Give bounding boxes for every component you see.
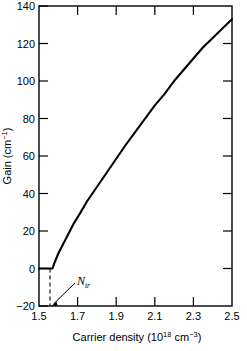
x-axis-title-main: Carrier density (10 [73, 331, 163, 343]
y-tick-label-100: 100 [17, 75, 35, 87]
y-axis-ticks-right [223, 44, 232, 269]
x-tick-label-2.5: 2.5 [224, 310, 239, 322]
y-axis-title-main: Gain (cm [1, 140, 13, 185]
x-tick-label-2.1: 2.1 [147, 310, 162, 322]
y-tick-label-80: 80 [23, 113, 35, 125]
ntr-annotation-label: Ntr [76, 274, 90, 290]
y-tick-label-0: 0 [29, 263, 35, 275]
axes-box [39, 6, 232, 306]
plot-frame [39, 6, 232, 306]
ntr-arrow-leader [54, 283, 76, 304]
x-axis-title-exp1: 18 [163, 330, 171, 339]
svg-text:Carrier density (1018 cm−3): Carrier density (1018 cm−3) [73, 330, 202, 343]
y-axis-title: Gain (cm−1) [0, 128, 13, 185]
ntr-label-sub: tr [85, 281, 90, 290]
y-axis-title-tail: ) [1, 128, 13, 132]
gain-curve [39, 19, 232, 268]
x-tick-label-1.9: 1.9 [109, 310, 124, 322]
y-tick-label-40: 40 [23, 188, 35, 200]
y-tick-label-140: 140 [17, 0, 35, 12]
x-axis-ticks-top [78, 6, 194, 15]
figure-container: 140 120 100 80 60 40 20 0 −20 1.5 1.7 1.… [0, 0, 247, 351]
x-tick-labels: 1.5 1.7 1.9 2.1 2.3 2.5 [31, 310, 239, 322]
x-axis-title-exp2: −3 [189, 330, 198, 339]
x-tick-label-2.3: 2.3 [186, 310, 201, 322]
y-axis-ticks [39, 6, 48, 306]
x-axis-title-mid: cm [171, 331, 189, 343]
x-axis-title: Carrier density (1018 cm−3) [73, 330, 202, 343]
x-tick-label-1.7: 1.7 [70, 310, 85, 322]
x-axis-title-tail: ) [198, 331, 202, 343]
gain-vs-carrier-density-chart: 140 120 100 80 60 40 20 0 −20 1.5 1.7 1.… [0, 0, 247, 351]
y-tick-label-120: 120 [17, 38, 35, 50]
svg-text:Gain (cm−1): Gain (cm−1) [0, 128, 13, 185]
x-tick-label-1.5: 1.5 [31, 310, 46, 322]
y-tick-labels: 140 120 100 80 60 40 20 0 −20 [16, 0, 35, 312]
x-axis-ticks [78, 297, 194, 306]
y-tick-label-20: 20 [23, 225, 35, 237]
y-axis-title-exp: −1 [0, 131, 9, 140]
y-tick-label-60: 60 [23, 150, 35, 162]
ntr-arrow-head [52, 302, 58, 307]
